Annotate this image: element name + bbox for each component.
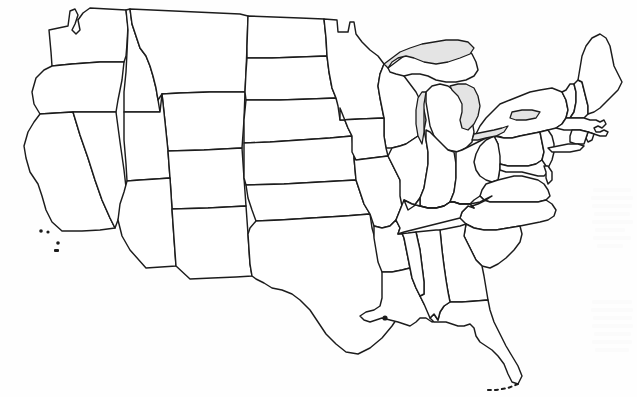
- lake-ontario: [510, 110, 540, 120]
- state-NM[interactable]: [172, 206, 252, 279]
- state-NE[interactable]: [244, 98, 352, 143]
- state-FL[interactable]: [430, 300, 522, 384]
- state-CT[interactable]: [570, 130, 588, 144]
- state-KS[interactable]: [244, 136, 356, 185]
- map-page: [0, 0, 637, 397]
- state-ND[interactable]: [247, 16, 327, 58]
- state-outlines: [24, 8, 622, 390]
- us-outline-map[interactable]: [0, 0, 637, 397]
- channel-islands: [39, 229, 60, 252]
- state-WA[interactable]: [49, 8, 128, 66]
- state-SD[interactable]: [245, 56, 336, 100]
- state-CO[interactable]: [168, 148, 246, 209]
- florida-keys: [484, 384, 518, 390]
- state-PA[interactable]: [494, 132, 544, 166]
- state-WY[interactable]: [162, 92, 245, 151]
- state-OR[interactable]: [32, 62, 124, 114]
- state-AZ[interactable]: [118, 178, 176, 268]
- mississippi-delta-point: [382, 315, 387, 320]
